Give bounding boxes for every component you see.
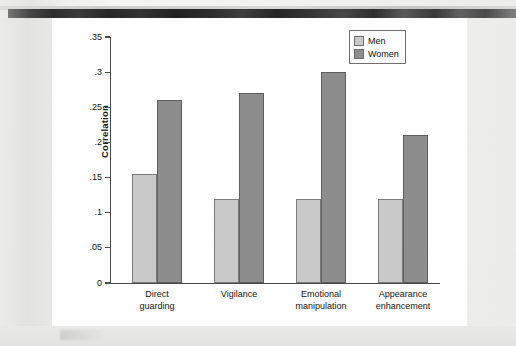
y-axis-title: Correlation [99, 86, 110, 178]
x-axis-line [110, 283, 440, 284]
y-tick-label-text: .15 [76, 172, 102, 182]
x-axis-label-4: Appearanceenhancement [348, 289, 458, 312]
y-axis-line [110, 37, 111, 283]
y-tick-.35 [105, 36, 110, 37]
y-tick-label-.15: .15 [74, 172, 102, 182]
y-tick-.1 [105, 212, 110, 213]
y-tick-.2 [105, 142, 110, 143]
y-tick-label-text: .2 [76, 137, 102, 147]
bar-men-2[interactable] [214, 199, 239, 283]
y-tick-label-0: 0 [74, 278, 102, 288]
bar-men-1[interactable] [132, 174, 157, 283]
legend-label-men: Men [368, 36, 386, 46]
y-tick-label-.25: .25 [74, 102, 102, 112]
y-tick-label-.3: .3 [74, 67, 102, 77]
scan-artifact-dark-band [8, 9, 516, 18]
y-tick-label-text: 0 [76, 278, 102, 288]
bar-women-2[interactable] [239, 93, 264, 283]
legend-swatch-men [354, 36, 364, 46]
x-axis-label-line: enhancement [348, 301, 458, 313]
y-tick-.15 [105, 177, 110, 178]
legend-label-women: Women [368, 49, 399, 59]
legend-item-women: Women [354, 47, 399, 60]
x-axis-label-line: guarding [102, 301, 212, 313]
y-tick-.25 [105, 107, 110, 108]
bar-chart: Correlation 0.05.1.15.2.25.3.35 Directgu… [52, 18, 467, 326]
legend-item-men: Men [354, 34, 399, 47]
y-tick-label-text: .05 [76, 242, 102, 252]
y-tick-label-.2: .2 [74, 137, 102, 147]
x-axis-label-line: Appearance [348, 289, 458, 301]
y-tick-label-text: .1 [76, 207, 102, 217]
bar-women-1[interactable] [157, 100, 182, 283]
bar-women-3[interactable] [321, 72, 346, 283]
y-tick-label-text: .3 [76, 67, 102, 77]
plot-area: 0.05.1.15.2.25.3.35 DirectguardingVigila… [110, 37, 440, 283]
y-tick-.05 [105, 247, 110, 248]
y-tick-label-.1: .1 [74, 207, 102, 217]
y-tick-label-.05: .05 [74, 242, 102, 252]
y-tick-label-.35: .35 [74, 32, 102, 42]
chart-legend: Men Women [349, 30, 406, 64]
y-tick-0 [105, 282, 110, 283]
caption-ghost-text [60, 330, 100, 340]
bar-men-4[interactable] [378, 199, 403, 283]
y-tick-label-text: .25 [76, 102, 102, 112]
y-tick-.3 [105, 72, 110, 73]
bar-men-3[interactable] [296, 199, 321, 283]
figure-plate: Correlation 0.05.1.15.2.25.3.35 Directgu… [52, 18, 467, 326]
y-tick-label-text: .35 [76, 32, 102, 42]
legend-swatch-women [354, 49, 364, 59]
page-left-gutter [0, 18, 52, 346]
bar-women-4[interactable] [403, 135, 428, 283]
